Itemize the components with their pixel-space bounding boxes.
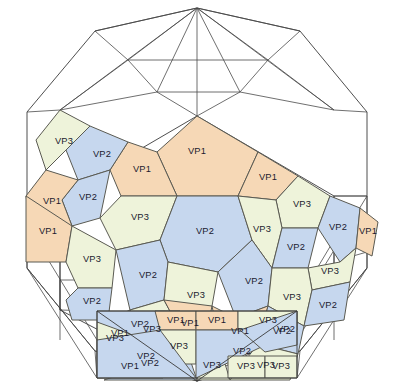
tile-vp2 [116,240,168,310]
tile-vp3 [228,356,265,378]
tile-vp1 [157,116,258,196]
tile-vp1 [155,311,196,330]
top-fan-lines [27,8,367,116]
bottom-band-layer [97,311,297,378]
tile-vp1 [356,208,378,256]
tiling-figure-root: VP1VP1VP1VP3VP2VP3VP3VP2VP1VP2VP3VP2VP2V… [0,0,394,389]
tile-vp1 [196,311,238,330]
polygon-tiling-diagram: VP1VP1VP1VP3VP2VP3VP3VP2VP1VP2VP3VP2VP2V… [0,0,394,389]
tile-vp3 [265,356,297,378]
